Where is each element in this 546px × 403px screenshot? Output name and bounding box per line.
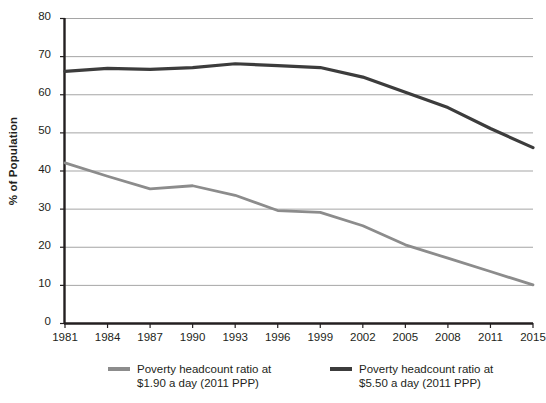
legend-label-0: Poverty headcount ratio at $1.90 a day (… xyxy=(137,362,271,390)
data-series-layer xyxy=(65,64,533,285)
poverty-headcount-line-chart: % of Population 01020304050607080 198119… xyxy=(0,0,546,403)
legend-swatch-icon-1 xyxy=(330,367,352,371)
legend-item-1: Poverty headcount ratio at $5.50 a day (… xyxy=(330,362,493,390)
legend-item-0: Poverty headcount ratio at $1.90 a day (… xyxy=(108,362,271,390)
legend-swatch-icon-0 xyxy=(108,367,130,371)
legend-label-1: Poverty headcount ratio at $5.50 a day (… xyxy=(359,362,493,390)
plot-area xyxy=(0,0,546,403)
chart-legend: Poverty headcount ratio at $1.90 a day (… xyxy=(0,356,546,403)
gridlines xyxy=(65,19,533,286)
data-series-line xyxy=(65,64,533,148)
data-series-line xyxy=(65,163,533,285)
